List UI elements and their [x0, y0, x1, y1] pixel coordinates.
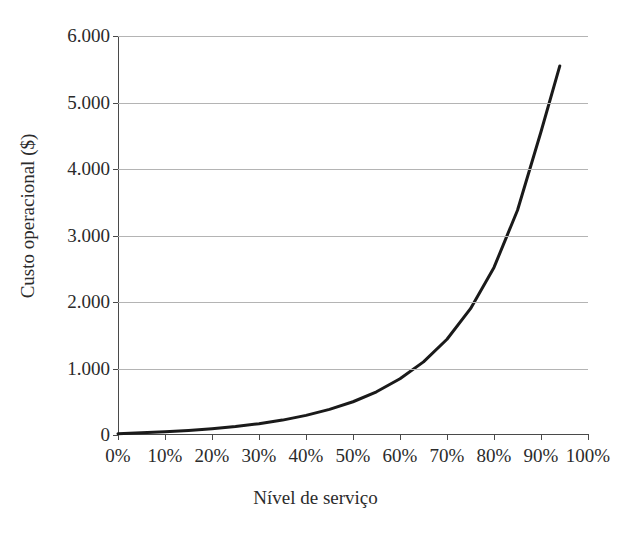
- x-axis-tick: [212, 435, 213, 440]
- x-axis-tick-label: 100%: [553, 446, 623, 465]
- chart-container: 01.0002.0003.0004.0005.0006.000 0%10%20%…: [0, 0, 631, 537]
- y-axis-tick-label: 2.000: [40, 292, 110, 311]
- x-axis-tick: [588, 435, 589, 440]
- x-axis-tick: [118, 435, 119, 440]
- gridline-horizontal: [118, 236, 588, 237]
- x-axis-tick: [541, 435, 542, 440]
- gridline-horizontal: [118, 36, 588, 37]
- x-axis-tick: [400, 435, 401, 440]
- gridline-horizontal: [118, 103, 588, 104]
- y-axis-tick: [113, 302, 118, 303]
- y-axis-tick-label: 1.000: [40, 359, 110, 378]
- x-axis-tick: [306, 435, 307, 440]
- x-axis-title: Nível de serviço: [0, 487, 631, 509]
- gridline-horizontal: [118, 302, 588, 303]
- y-axis-tick: [113, 169, 118, 170]
- y-axis-tick-label: 6.000: [40, 26, 110, 45]
- x-axis-tick: [353, 435, 354, 440]
- gridline-horizontal: [118, 369, 588, 370]
- y-axis-tick-label: 3.000: [40, 226, 110, 245]
- y-axis-tick: [113, 36, 118, 37]
- y-axis-tick-label: 4.000: [40, 159, 110, 178]
- y-axis-tick-label: 5.000: [40, 93, 110, 112]
- x-axis-tick-label-group: 0%10%20%30%40%50%60%70%80%90%100%: [0, 446, 631, 472]
- y-axis-tick: [113, 236, 118, 237]
- x-axis-tick: [494, 435, 495, 440]
- x-axis-tick: [165, 435, 166, 440]
- plot-area: [118, 36, 588, 435]
- x-axis-tick: [259, 435, 260, 440]
- y-axis-tick: [113, 103, 118, 104]
- y-axis-tick-label: 0: [40, 425, 110, 444]
- y-axis-tick: [113, 369, 118, 370]
- gridline-horizontal: [118, 169, 588, 170]
- x-axis-tick: [447, 435, 448, 440]
- y-axis-title: Custo operacional ($): [17, 96, 39, 336]
